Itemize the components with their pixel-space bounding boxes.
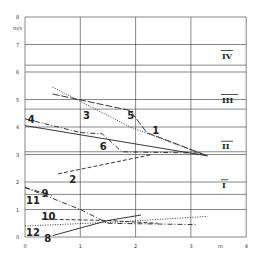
series-label-6: 6	[100, 141, 107, 152]
series-label-4: 4	[28, 114, 35, 125]
y-tick-label: 1	[16, 207, 19, 213]
x-tick-label: 4	[245, 243, 248, 249]
series-line-6	[80, 133, 202, 154]
zone-label-I: I	[222, 180, 226, 190]
y-tick-label: 6	[16, 69, 19, 75]
zone-label-IV: IV	[222, 51, 233, 61]
line-chart: 01234123456780 12345689101112 IVIIIIII m…	[0, 0, 261, 259]
y-tick-label: 2	[16, 179, 19, 185]
series-label-8: 8	[44, 233, 51, 244]
x-tick-label: 1	[79, 243, 82, 249]
y-tick-label: 8	[16, 14, 19, 20]
series-line-3	[53, 87, 208, 156]
x-tick-label: 2	[134, 243, 137, 249]
zone-label-II: II	[222, 141, 230, 151]
series-label-2: 2	[69, 174, 76, 185]
x-tick-label: 3	[189, 243, 192, 249]
y-tick-label: 0	[16, 234, 19, 240]
series-label-11: 11	[26, 195, 40, 206]
series-label-10: 10	[42, 211, 56, 222]
series-line-1	[25, 126, 208, 156]
y-tick-label: 7	[16, 42, 19, 48]
x-axis-label: m	[218, 243, 223, 249]
x-tick-label: 0	[24, 243, 27, 249]
y-tick-label: 3	[16, 152, 19, 158]
series-line-2	[58, 155, 152, 174]
series-label-1: 1	[152, 125, 159, 136]
zone-label-III: III	[222, 95, 233, 105]
series-label-5: 5	[127, 110, 134, 121]
series-label-9: 9	[42, 188, 49, 199]
y-tick-label: 4	[16, 124, 19, 130]
series-line-5	[53, 94, 208, 156]
y-tick-label: 5	[16, 97, 19, 103]
series-label-3: 3	[83, 110, 90, 121]
zone-labels: IVIIIIII	[221, 51, 238, 190]
series-label-12: 12	[26, 227, 40, 238]
y-axis-label: m/s	[13, 25, 23, 31]
series-line-8	[53, 215, 142, 236]
